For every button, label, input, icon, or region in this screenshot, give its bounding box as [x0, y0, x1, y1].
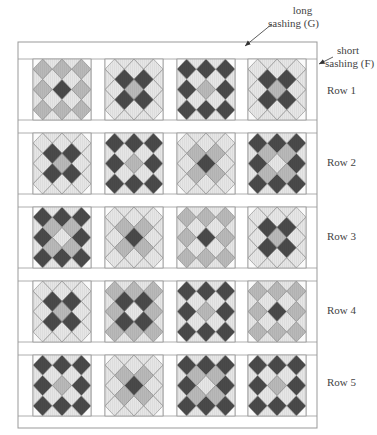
quilt-block — [167, 345, 244, 426]
row-label-3: Row 3 — [327, 230, 356, 242]
quilt-block — [23, 345, 100, 426]
quilt-block — [238, 49, 315, 130]
short-sashing-label: short sashing (F) — [325, 44, 374, 70]
quilt-block — [23, 49, 100, 130]
quilt-block — [238, 345, 315, 426]
quilt-block — [167, 271, 244, 352]
quilt-block — [23, 197, 100, 278]
quilt-block — [95, 123, 172, 204]
row-label-5: Row 5 — [327, 376, 356, 388]
quilt-block — [95, 271, 172, 352]
quilt-diagram — [0, 0, 377, 435]
quilt-block — [167, 197, 244, 278]
quilt-block — [238, 271, 315, 352]
quilt-block — [167, 49, 244, 130]
row-label-2: Row 2 — [327, 156, 356, 168]
row-label-4: Row 4 — [327, 304, 356, 316]
row-label-1: Row 1 — [327, 84, 356, 96]
quilt-block — [95, 345, 172, 426]
quilt-block — [23, 271, 100, 352]
quilt-block — [95, 49, 172, 130]
quilt-block — [95, 197, 172, 278]
quilt-block — [238, 197, 315, 278]
quilt-block — [23, 123, 100, 204]
quilt-block — [167, 123, 244, 204]
long-sashing-label: long sashing (G) — [268, 4, 319, 30]
quilt-block — [238, 123, 315, 204]
